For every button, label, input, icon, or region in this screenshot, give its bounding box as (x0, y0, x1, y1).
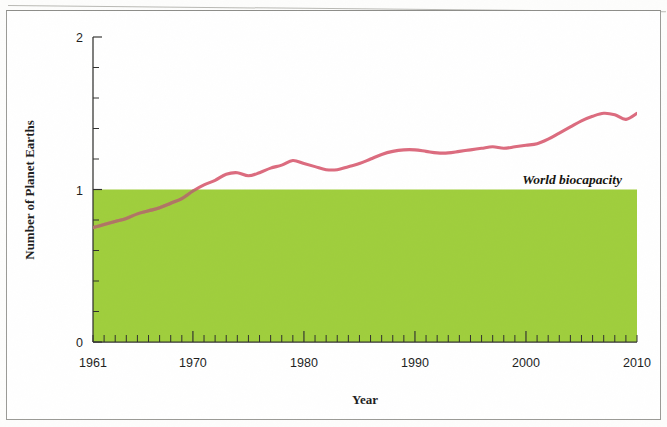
x-tick-label: 1990 (401, 356, 429, 370)
biocapacity-band (93, 190, 637, 343)
world-biocapacity-label: World biocapacity (522, 172, 623, 187)
y-tick-label: 0 (76, 336, 83, 350)
x-axis-title: Year (352, 392, 378, 407)
x-axis-tick-labels: 196119701980199020002010 (79, 356, 651, 370)
ecological-footprint-chart: 012 196119701980199020002010 Number of P… (0, 0, 667, 427)
y-axis-tick-labels: 012 (76, 31, 83, 350)
x-tick-label: 2010 (623, 356, 651, 370)
x-tick-label: 1970 (179, 356, 207, 370)
y-tick-label: 2 (76, 31, 83, 45)
x-tick-label: 2000 (512, 356, 540, 370)
x-tick-label: 1961 (79, 356, 107, 370)
y-tick-label: 1 (76, 184, 83, 198)
biocapacity-band-group (93, 190, 637, 343)
chart-page: 012 196119701980199020002010 Number of P… (0, 0, 667, 427)
x-tick-label: 1980 (290, 356, 318, 370)
y-axis-title: Number of Planet Earths (22, 120, 37, 260)
